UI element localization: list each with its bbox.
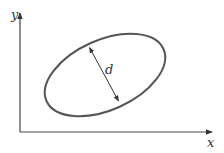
y-axis-label: y xyxy=(10,7,19,22)
width-arrow xyxy=(90,48,119,102)
width-label: d xyxy=(105,62,113,77)
diagram-canvas: y x d xyxy=(0,0,224,153)
x-axis-label: x xyxy=(207,135,215,150)
